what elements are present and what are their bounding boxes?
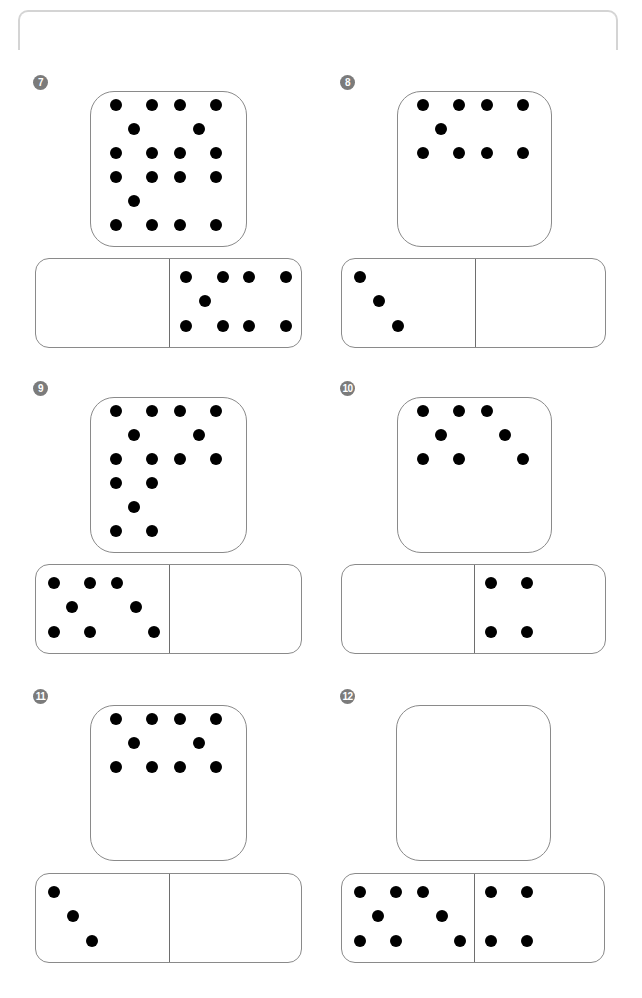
dot <box>243 271 255 283</box>
dot <box>180 271 192 283</box>
dot-total-square[interactable] <box>397 397 552 553</box>
domino-left-half[interactable] <box>342 565 474 653</box>
dot <box>146 525 158 537</box>
domino-tile <box>341 258 606 348</box>
dot <box>354 271 366 283</box>
domino-tile <box>35 564 302 654</box>
domino-tile <box>35 258 302 348</box>
dot <box>210 147 222 159</box>
domino-tile <box>35 873 302 963</box>
dot <box>128 195 140 207</box>
dot <box>210 453 222 465</box>
dot <box>110 219 122 231</box>
dot <box>453 147 465 159</box>
dot <box>67 910 79 922</box>
dot <box>48 577 60 589</box>
problem-number-badge: 7 <box>33 75 48 90</box>
dot <box>128 737 140 749</box>
dot <box>174 761 186 773</box>
dot <box>417 405 429 417</box>
dot <box>485 626 497 638</box>
dot <box>210 761 222 773</box>
domino-right-half[interactable] <box>475 259 605 347</box>
dot <box>174 713 186 725</box>
domino-divider <box>169 259 170 347</box>
dot <box>217 271 229 283</box>
dot <box>128 501 140 513</box>
dot <box>110 405 122 417</box>
dot <box>485 886 497 898</box>
dot <box>210 171 222 183</box>
dot <box>435 123 447 135</box>
dot <box>146 405 158 417</box>
dot <box>174 171 186 183</box>
dot <box>48 886 60 898</box>
dot-total-square[interactable] <box>90 397 247 553</box>
dot <box>485 935 497 947</box>
dot <box>86 935 98 947</box>
dot <box>481 405 493 417</box>
dot <box>148 626 160 638</box>
dot <box>417 147 429 159</box>
domino-right-half[interactable] <box>169 565 301 653</box>
dot-total-square[interactable] <box>90 91 247 247</box>
dot <box>372 910 384 922</box>
dot <box>174 405 186 417</box>
dot <box>210 99 222 111</box>
domino-right-half[interactable] <box>169 874 301 962</box>
dot-total-square[interactable] <box>396 705 551 861</box>
dot <box>110 99 122 111</box>
dot <box>521 886 533 898</box>
dot <box>146 99 158 111</box>
dot <box>517 147 529 159</box>
dot <box>517 99 529 111</box>
dot <box>146 477 158 489</box>
dot-total-square[interactable] <box>397 91 552 247</box>
dot <box>280 271 292 283</box>
dot <box>128 123 140 135</box>
problem-number-badge: 10 <box>340 381 355 396</box>
dot <box>521 626 533 638</box>
dot <box>48 626 60 638</box>
dot <box>128 429 140 441</box>
dot <box>243 320 255 332</box>
dot <box>146 453 158 465</box>
domino-tile <box>341 873 605 963</box>
dot <box>210 405 222 417</box>
problem-number-badge: 9 <box>33 381 48 396</box>
dot <box>111 577 123 589</box>
dot <box>481 99 493 111</box>
dot <box>210 713 222 725</box>
dot <box>521 935 533 947</box>
dot <box>199 295 211 307</box>
domino-divider <box>169 874 170 962</box>
dot <box>110 713 122 725</box>
domino-tile <box>341 564 606 654</box>
dot <box>146 219 158 231</box>
domino-left-half[interactable] <box>36 259 169 347</box>
dot <box>110 525 122 537</box>
dot <box>453 405 465 417</box>
dot <box>517 453 529 465</box>
dot <box>435 429 447 441</box>
dot <box>454 935 466 947</box>
dot <box>481 147 493 159</box>
dot <box>110 171 122 183</box>
dot <box>210 219 222 231</box>
dot <box>499 429 511 441</box>
domino-divider <box>474 874 475 962</box>
dot <box>193 737 205 749</box>
dot <box>130 601 142 613</box>
dot <box>390 935 402 947</box>
dot <box>174 453 186 465</box>
dot <box>521 577 533 589</box>
dot <box>390 886 402 898</box>
dot <box>417 99 429 111</box>
domino-divider <box>169 565 170 653</box>
dot <box>485 577 497 589</box>
domino-divider <box>474 565 475 653</box>
dot-total-square[interactable] <box>90 705 247 861</box>
dot <box>354 935 366 947</box>
dot <box>193 123 205 135</box>
problem-number-badge: 8 <box>340 75 355 90</box>
